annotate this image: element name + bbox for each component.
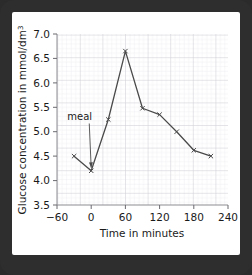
y-tick-label: 5.5 [33, 101, 50, 113]
y-axis-ticks [53, 34, 57, 205]
y-axis-tick-labels: 3.5 4.0 4.5 5.0 5.5 6.0 6.5 7.0 [33, 28, 50, 211]
meal-annotation-label: meal [67, 111, 92, 122]
x-tick-label: 60 [119, 211, 132, 223]
image-frame: 3.5 4.0 4.5 5.0 5.5 6.0 6.5 7.0 [0, 0, 252, 275]
y-axis-title: Glucose concentration in mmol/dm3 [16, 26, 28, 215]
y-tick-label: 3.5 [33, 199, 50, 211]
y-tick-label: 6.5 [33, 52, 50, 64]
y-axis-title-superscript: 3 [17, 26, 25, 30]
x-tick-label: 240 [218, 211, 238, 223]
y-tick-label: 5.0 [33, 125, 50, 137]
glucose-line-chart: 3.5 4.0 4.5 5.0 5.5 6.0 6.5 7.0 [12, 12, 240, 255]
y-tick-label: 4.0 [33, 174, 50, 186]
y-tick-label: 7.0 [33, 28, 50, 40]
chart-page: 3.5 4.0 4.5 5.0 5.5 6.0 6.5 7.0 [12, 12, 240, 255]
y-axis-title-main: Glucose concentration in mmol/dm [16, 30, 28, 214]
x-axis-tick-labels: −60 0 60 120 180 240 [46, 211, 238, 223]
x-tick-label: 180 [184, 211, 204, 223]
chart-svg: 3.5 4.0 4.5 5.0 5.5 6.0 6.5 7.0 [12, 12, 240, 255]
y-tick-label: 6.0 [33, 77, 50, 89]
y-tick-label: 4.5 [33, 150, 50, 162]
x-axis-ticks [57, 205, 228, 209]
x-axis-title: Time in minutes [99, 227, 184, 239]
x-tick-label: 0 [88, 211, 95, 223]
x-tick-label: 120 [150, 211, 170, 223]
x-tick-label: −60 [46, 211, 68, 223]
